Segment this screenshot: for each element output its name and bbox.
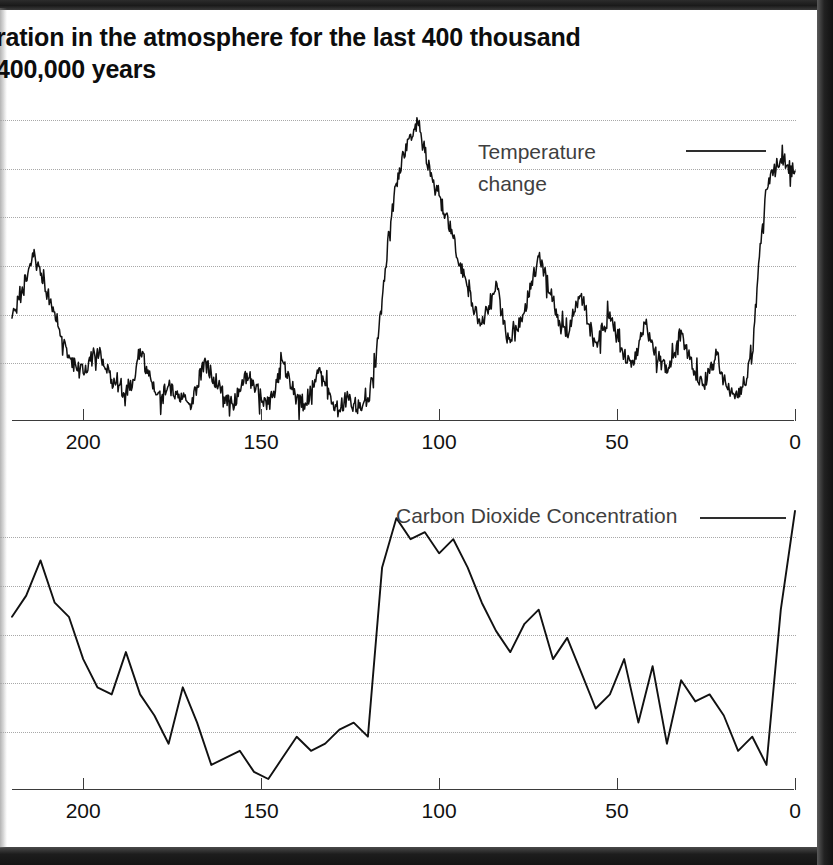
x-tick-label: 50 (605, 430, 628, 454)
co2-x-axis (12, 789, 794, 790)
x-tick (83, 778, 84, 790)
page-title: ration in the atmosphere for the last 40… (0, 22, 716, 85)
x-tick (617, 409, 618, 421)
temperature-legend-label: Temperature change (478, 136, 658, 199)
x-tick-label: 150 (244, 799, 279, 823)
x-tick (617, 778, 618, 790)
page-title-line-1: ration in the atmosphere for the last 40… (0, 22, 716, 54)
scan-edge-top (0, 0, 833, 10)
x-tick-label: 100 (422, 799, 457, 823)
temperature-legend: Temperature change (478, 136, 808, 199)
x-tick-label: 150 (244, 430, 279, 454)
co2-x-tick-labels: 200150100500 (0, 799, 806, 829)
x-tick (261, 778, 262, 790)
x-tick (439, 409, 440, 421)
x-tick (83, 409, 84, 421)
temperature-legend-line-swatch (686, 150, 766, 152)
x-tick-label: 100 (422, 430, 457, 454)
x-tick-label: 200 (66, 430, 101, 454)
co2-legend-label: Carbon Dioxide Concentration (396, 503, 677, 528)
x-tick-label: 50 (605, 799, 628, 823)
scan-edge-bottom (0, 847, 833, 865)
temperature-x-axis (12, 420, 794, 421)
co2-legend-line-swatch (700, 517, 786, 519)
temperature-x-tick-labels: 200150100500 (0, 430, 806, 460)
co2-series-line (0, 497, 806, 789)
x-tick-label: 0 (789, 799, 801, 823)
x-tick (795, 409, 796, 421)
x-tick (261, 409, 262, 421)
scan-edge-right (817, 0, 833, 865)
scanned-page: ration in the atmosphere for the last 40… (0, 0, 833, 865)
co2-legend: Carbon Dioxide Concentration (396, 503, 808, 528)
temperature-legend-label-line-2: change (478, 172, 547, 195)
co2-plot-area (0, 497, 806, 789)
co2-chart-panel: 200150100500 (0, 497, 806, 847)
page-title-line-2: 400,000 years (0, 54, 716, 86)
x-tick (795, 778, 796, 790)
x-tick-label: 200 (66, 799, 101, 823)
x-tick (439, 778, 440, 790)
x-tick-label: 0 (789, 430, 801, 454)
temperature-legend-label-line-1: Temperature (478, 140, 596, 163)
